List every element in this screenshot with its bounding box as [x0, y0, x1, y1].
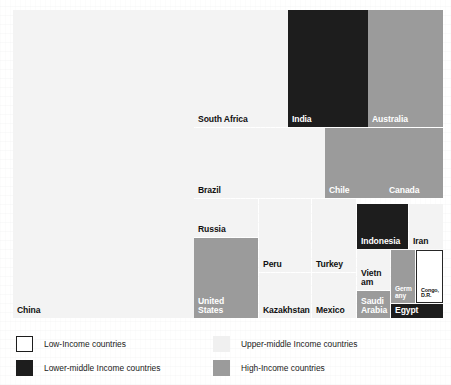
treemap-tile-kazakhstan[interactable]: Kazakhstan: [259, 273, 311, 318]
treemap-tile-vietnam[interactable]: Vietn am: [357, 250, 390, 290]
treemap-tile-saudi-arabia[interactable]: Saudi Arabia: [357, 291, 390, 318]
legend-swatch-low-income: [16, 336, 33, 352]
treemap-tile-brazil[interactable]: Brazil: [194, 128, 325, 198]
treemap-tile-united-states[interactable]: United States: [194, 238, 258, 318]
legend-item-upper-middle-income[interactable]: Upper-middle Income countries: [213, 336, 357, 352]
treemap-tile-egypt[interactable]: Egypt: [391, 304, 443, 318]
treemap-tile-india[interactable]: India: [288, 10, 368, 127]
legend-label: Upper-middle Income countries: [241, 339, 357, 349]
treemap-tile-label: Mexico: [316, 306, 345, 315]
treemap-tile-label: China: [17, 306, 40, 315]
treemap-tile-iran[interactable]: Iran: [409, 204, 443, 249]
chart-legend: Low-Income countriesLower-middle Income …: [0, 330, 451, 385]
legend-label: Low-Income countries: [44, 339, 126, 349]
treemap-tile-indonesia[interactable]: Indonesia: [357, 204, 408, 249]
treemap-tile-label: Germ any: [395, 286, 412, 300]
treemap-tile-south-africa[interactable]: South Africa: [194, 10, 288, 127]
treemap-tile-label: Canada: [389, 186, 419, 195]
treemap-tile-label: United States: [198, 297, 224, 315]
legend-swatch-lower-middle-income: [16, 360, 33, 376]
treemap-tile-canada[interactable]: Canada: [385, 128, 443, 198]
legend-swatch-upper-middle-income: [213, 336, 230, 352]
treemap-tile-congo-dr[interactable]: Congo, D.R.: [416, 250, 443, 303]
treemap-tile-label: Congo, D.R.: [421, 288, 439, 299]
legend-label: High-Income countries: [241, 363, 325, 373]
treemap-tile-label: South Africa: [198, 115, 248, 124]
treemap-tile-label: Turkey: [316, 260, 343, 269]
treemap-tile-germany[interactable]: Germ any: [391, 250, 415, 303]
treemap-tile-label: Egypt: [395, 306, 418, 315]
treemap-tile-turkey[interactable]: Turkey: [312, 199, 356, 272]
legend-item-lower-middle-income[interactable]: Lower-middle Income countries: [16, 360, 160, 376]
treemap-tile-label: India: [292, 115, 312, 124]
legend-swatch-high-income: [213, 360, 230, 376]
legend-label: Lower-middle Income countries: [44, 363, 160, 373]
treemap-tile-label: Kazakhstan: [263, 306, 310, 315]
treemap-tile-russia[interactable]: Russia: [194, 199, 258, 237]
treemap-tile-mexico[interactable]: Mexico: [312, 273, 356, 318]
treemap-tile-label: Chile: [329, 186, 350, 195]
treemap-tile-australia[interactable]: Australia: [368, 10, 443, 127]
treemap-tile-label: Peru: [263, 260, 282, 269]
treemap-chart: ChinaSouth AfricaIndiaAustraliaBrazilChi…: [0, 0, 451, 330]
legend-item-high-income[interactable]: High-Income countries: [213, 360, 325, 376]
treemap-tile-china[interactable]: China: [13, 10, 194, 318]
treemap-tile-label: Brazil: [198, 186, 221, 195]
treemap-tile-label: Russia: [198, 225, 226, 234]
treemap-tile-label: Vietn am: [361, 269, 381, 287]
treemap-tile-peru[interactable]: Peru: [259, 199, 311, 272]
treemap-tile-label: Saudi Arabia: [361, 297, 387, 315]
treemap-tile-chile[interactable]: Chile: [325, 128, 385, 198]
treemap-tile-label: Indonesia: [361, 237, 400, 246]
legend-item-low-income[interactable]: Low-Income countries: [16, 336, 126, 352]
treemap-tile-label: Iran: [413, 237, 428, 246]
treemap-tile-label: Australia: [372, 115, 408, 124]
